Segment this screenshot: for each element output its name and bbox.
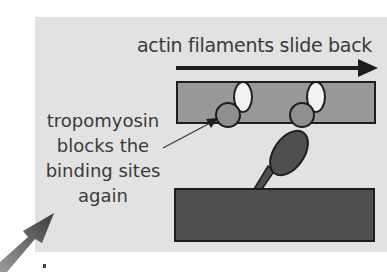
myosin-head xyxy=(254,124,316,189)
actin-filament xyxy=(177,82,375,123)
tropomyosin-1 xyxy=(216,103,240,127)
myosin-filament xyxy=(175,189,374,241)
partial-glyph xyxy=(43,264,46,268)
tropomyosin-2 xyxy=(290,103,314,127)
slide-direction-arrow-icon xyxy=(176,59,378,77)
diagram-graphics xyxy=(0,0,387,274)
step-transition-arrow-icon xyxy=(0,213,54,272)
